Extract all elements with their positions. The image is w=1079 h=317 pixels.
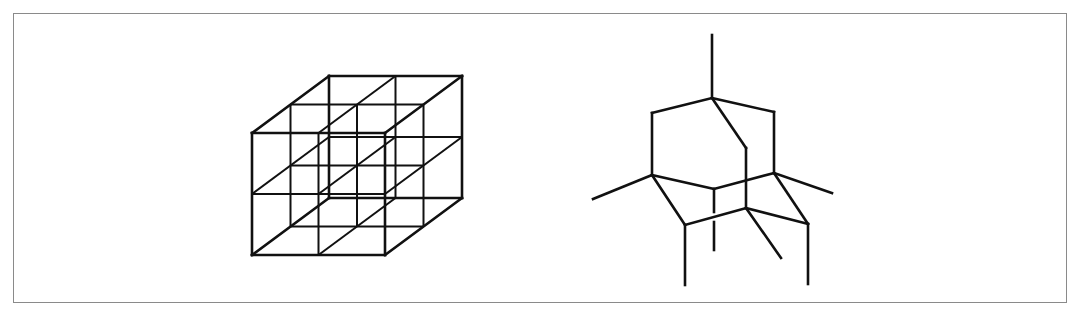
adamantane-skeleton-drawing <box>593 35 832 285</box>
bond-C-R <box>714 173 774 189</box>
substituent-bond <box>774 173 832 193</box>
cube-lattice-drawing <box>252 76 462 255</box>
bond-LL-B <box>685 208 746 225</box>
figure-canvas <box>0 0 1079 317</box>
bond-T-UL <box>652 98 712 113</box>
substituent-bond <box>593 175 652 199</box>
